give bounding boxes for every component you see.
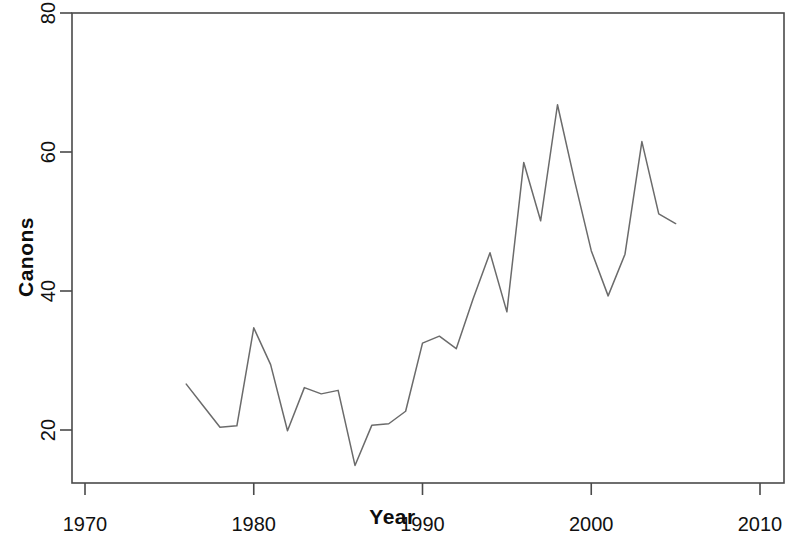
chart-figure: 20406080 19701980199020002010 Year Canon… — [0, 0, 785, 539]
y-axis-ticks: 20406080 — [37, 2, 72, 441]
y-tick-label: 80 — [37, 2, 59, 24]
y-tick-label: 20 — [37, 419, 59, 441]
line-chart: 20406080 19701980199020002010 — [0, 0, 785, 539]
x-axis-title: Year — [0, 505, 785, 529]
y-tick-label: 60 — [37, 141, 59, 163]
data-series-group — [186, 105, 675, 466]
y-tick-label: 40 — [37, 280, 59, 302]
y-axis-title: Canons — [14, 187, 38, 327]
plot-frame — [72, 13, 784, 483]
series-line-canons — [186, 105, 675, 466]
